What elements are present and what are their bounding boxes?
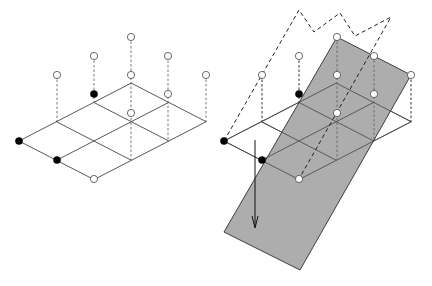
open-point [90,52,97,59]
lattice-figure [0,0,432,286]
filled-point [53,156,60,163]
open-point [53,71,60,78]
open-point [258,71,265,78]
left-lattice-panel [15,33,209,182]
filled-point [258,156,265,163]
open-point [333,33,340,40]
open-point [90,175,97,182]
open-point [333,71,340,78]
open-point [164,52,171,59]
open-point [202,71,209,78]
open-point [127,71,134,78]
supporting-plane [224,37,411,270]
filled-point [90,90,97,97]
filled-point [220,137,227,144]
open-point [295,175,302,182]
open-point [164,90,171,97]
filled-point [15,137,22,144]
open-point [370,52,377,59]
open-point [127,33,134,40]
open-point [407,71,414,78]
lattice-edge [19,83,131,141]
filled-point [295,90,302,97]
open-point [127,109,134,116]
open-point [370,90,377,97]
lattice-edge [94,122,206,180]
right-lattice-panel [220,10,414,270]
lattice-edge [57,102,169,160]
open-point [295,52,302,59]
open-point [333,109,340,116]
